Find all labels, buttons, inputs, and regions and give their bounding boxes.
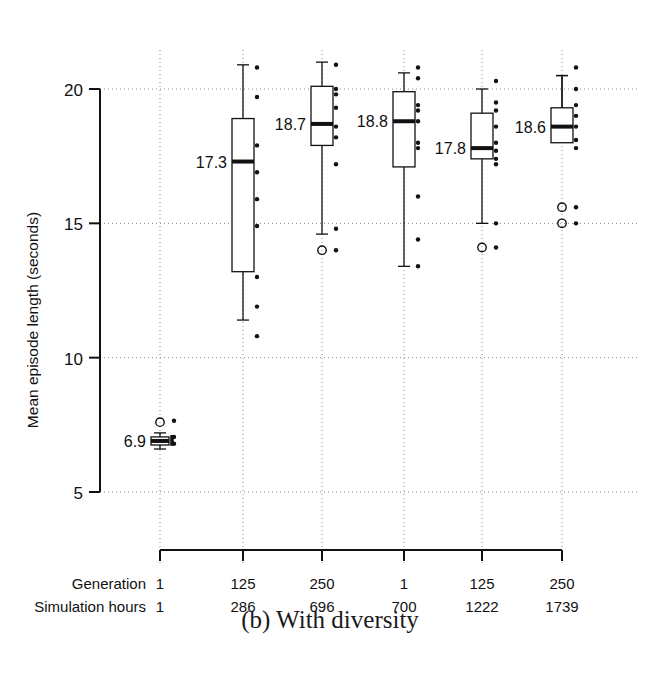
- data-point-1: [494, 100, 498, 104]
- generation-value-1: 125: [230, 575, 255, 592]
- data-point-8: [416, 237, 420, 241]
- data-point-7: [574, 205, 578, 209]
- data-point-8: [574, 221, 578, 225]
- data-point-6: [416, 146, 420, 150]
- data-point-2: [334, 92, 338, 96]
- median-label-3: 18.8: [357, 113, 388, 130]
- boxplot-chart: 5101520Mean episode length (seconds)Gene…: [0, 0, 660, 681]
- data-point-0: [494, 79, 498, 83]
- boxplot-group-2: 18.7: [275, 62, 338, 254]
- boxplot-group-3: 18.8: [357, 65, 420, 268]
- data-point-9: [416, 264, 420, 268]
- y-axis-label: Mean episode length (seconds): [24, 212, 41, 428]
- data-point-8: [494, 221, 498, 225]
- data-point-5: [494, 149, 498, 153]
- data-point-3: [574, 114, 578, 118]
- data-point-4: [416, 119, 420, 123]
- data-point-0: [255, 65, 259, 69]
- median-label-1: 17.3: [196, 154, 227, 171]
- data-point-4: [334, 124, 338, 128]
- data-point-5: [416, 141, 420, 145]
- data-point-0: [334, 63, 338, 67]
- data-point-1: [255, 95, 259, 99]
- data-point-4: [574, 124, 578, 128]
- data-point-1: [334, 87, 338, 91]
- data-point-3: [416, 108, 420, 112]
- data-point-1: [574, 87, 578, 91]
- generation-value-4: 125: [469, 575, 494, 592]
- y-tick-label-20: 20: [64, 81, 83, 100]
- data-point-0: [416, 65, 420, 69]
- row-label-generation: Generation: [72, 575, 146, 592]
- y-tick-label-10: 10: [64, 350, 83, 369]
- median-label-2: 18.7: [275, 116, 306, 133]
- data-point-1: [416, 76, 420, 80]
- figure-panel: 5101520Mean episode length (seconds)Gene…: [0, 0, 660, 681]
- median-label-4: 17.8: [435, 140, 466, 157]
- data-point-7: [494, 162, 498, 166]
- data-point-4: [255, 197, 259, 201]
- data-point-6: [574, 146, 578, 150]
- data-point-0: [172, 419, 176, 423]
- box-iqr: [393, 92, 415, 167]
- data-point-7: [255, 304, 259, 308]
- generation-value-5: 250: [549, 575, 574, 592]
- boxplot-group-5: 18.6: [515, 65, 578, 227]
- generation-value-3: 1: [400, 575, 408, 592]
- box-iqr: [232, 119, 254, 272]
- x-axis: [160, 550, 562, 561]
- data-point-6: [334, 162, 338, 166]
- generation-value-0: 1: [156, 575, 164, 592]
- data-point-0: [574, 65, 578, 69]
- data-point-3: [494, 124, 498, 128]
- data-point-5: [334, 135, 338, 139]
- data-point-2: [494, 108, 498, 112]
- data-point-8: [334, 248, 338, 252]
- data-point-5: [574, 138, 578, 142]
- data-point-4: [494, 141, 498, 145]
- data-point-2: [416, 103, 420, 107]
- data-point-7: [416, 194, 420, 198]
- y-tick-label-15: 15: [64, 215, 83, 234]
- box-iqr: [471, 113, 493, 159]
- y-axis: 5101520Mean episode length (seconds): [24, 81, 100, 503]
- data-point-9: [494, 245, 498, 249]
- data-point-8: [255, 334, 259, 338]
- y-tick-label-5: 5: [74, 484, 83, 503]
- generation-value-2: 250: [309, 575, 334, 592]
- box-iqr: [311, 86, 333, 145]
- boxplot-group-4: 17.8: [435, 79, 498, 252]
- figure-caption: (b) With diversity: [0, 606, 660, 634]
- boxplot-group-1: 17.3: [196, 65, 259, 339]
- median-label-5: 18.6: [515, 119, 546, 136]
- data-point-5: [255, 224, 259, 228]
- data-point-7: [334, 227, 338, 231]
- data-point-3: [255, 170, 259, 174]
- data-point-2: [255, 143, 259, 147]
- boxplot-group-0: 6.9: [124, 418, 176, 450]
- median-label-0: 6.9: [124, 433, 146, 450]
- data-point-6: [494, 157, 498, 161]
- data-point-3: [334, 106, 338, 110]
- data-point-2: [574, 103, 578, 107]
- data-point-6: [255, 275, 259, 279]
